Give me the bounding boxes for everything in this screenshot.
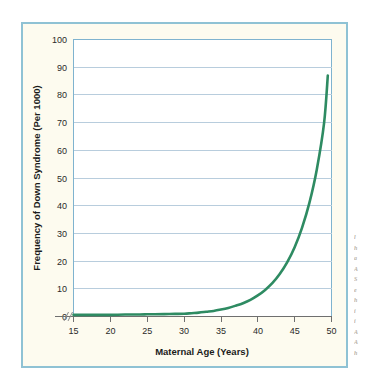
margin-cutoff-text: lhaASe hiiAAh — [354, 232, 372, 358]
x-axis-tick-marks — [74, 317, 332, 323]
x-tick-50: 50 — [326, 326, 336, 336]
y-tick-70: 70 — [57, 118, 67, 128]
y-tick-40: 40 — [57, 201, 67, 211]
figure-frame: 100 90 80 70 60 50 40 30 20 10 0 Frequen… — [21, 22, 348, 368]
y-tick-20: 20 — [57, 257, 67, 267]
x-axis-title: Maternal Age (Years) — [155, 346, 249, 357]
x-tick-45: 45 — [290, 326, 300, 336]
y-tick-80: 80 — [57, 90, 67, 100]
y-tick-60: 60 — [57, 146, 67, 156]
x-tick-15: 15 — [68, 326, 78, 336]
y-axis-title: Frequency of Down Syndrome (Per 1000) — [31, 85, 42, 270]
y-tick-90: 90 — [57, 63, 67, 73]
chart-plot-area: 100 90 80 70 60 50 40 30 20 10 0 Frequen… — [23, 24, 346, 366]
y-tick-10: 10 — [57, 284, 67, 294]
x-tick-30: 30 — [179, 326, 189, 336]
x-tick-25: 25 — [142, 326, 152, 336]
y-axis-tick-labels: 100 90 80 70 60 50 40 30 20 10 0 — [52, 35, 67, 322]
x-axis-tick-labels: 15 20 25 30 35 40 45 50 — [68, 326, 336, 336]
y-tick-30: 30 — [57, 229, 67, 239]
x-tick-20: 20 — [105, 326, 115, 336]
y-tick-100: 100 — [52, 35, 67, 45]
down-syndrome-frequency-chart: 100 90 80 70 60 50 40 30 20 10 0 Frequen… — [23, 24, 346, 366]
x-tick-35: 35 — [216, 326, 226, 336]
y-tick-50: 50 — [57, 174, 67, 184]
x-tick-40: 40 — [253, 326, 263, 336]
